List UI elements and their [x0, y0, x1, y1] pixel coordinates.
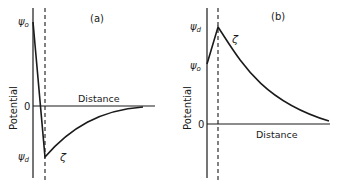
panel-a: ψo ψd 0 ζ (a) Distance Potential: [8, 8, 155, 180]
x-axis-label-b: Distance: [256, 129, 298, 140]
psi-d-label-a: ψd: [18, 151, 30, 164]
panel-label-b: (b): [271, 11, 285, 22]
zero-label-b: 0: [198, 119, 204, 130]
y-axis-label-b: Potential: [182, 86, 193, 130]
y-axis-label-a: Potential: [8, 86, 19, 130]
zero-label-a: 0: [24, 101, 30, 112]
potential-curve-a: [33, 22, 143, 157]
panel-label-a: (a): [90, 13, 104, 24]
zeta-label-b: ζ: [231, 33, 239, 46]
figure-canvas: ψo ψd 0 ζ (a) Distance Potential ψd ψo 0…: [0, 0, 340, 186]
x-axis-label-a: Distance: [78, 93, 120, 104]
potential-curve-b: [207, 27, 329, 121]
zeta-label-a: ζ: [59, 151, 67, 164]
panel-b: ψd ψo 0 ζ (b) Distance Potential: [182, 8, 330, 180]
psi-o-label-a: ψo: [18, 16, 29, 29]
psi-o-label-b: ψo: [190, 60, 201, 73]
psi-d-label-b: ψd: [190, 21, 202, 34]
